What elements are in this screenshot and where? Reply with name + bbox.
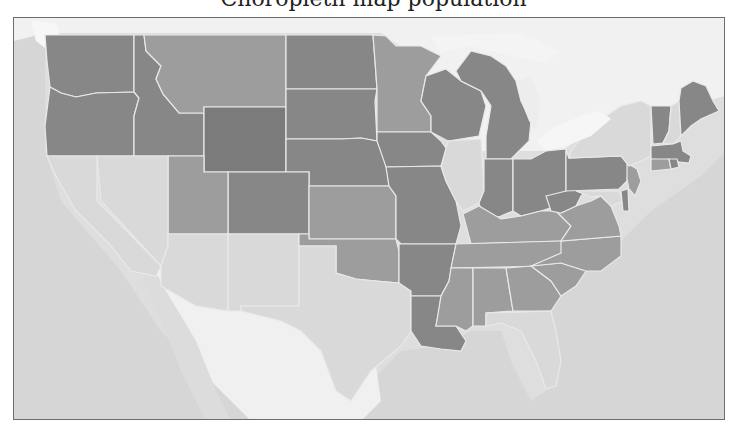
state-de[interactable] [621, 189, 629, 211]
state-co[interactable] [228, 172, 309, 234]
state-or[interactable] [45, 87, 139, 156]
state-ct[interactable] [651, 159, 671, 171]
map-frame [13, 17, 725, 420]
state-ks[interactable] [309, 186, 396, 239]
state-sd[interactable] [286, 89, 377, 141]
choropleth-map [14, 18, 725, 420]
state-wa[interactable] [45, 35, 134, 97]
state-ri[interactable] [669, 159, 679, 169]
state-wy[interactable] [204, 107, 286, 172]
state-nm[interactable] [228, 234, 299, 311]
state-nd[interactable] [286, 35, 377, 89]
state-ia[interactable] [377, 132, 448, 167]
map-title: Choropleth map population [0, 0, 747, 11]
